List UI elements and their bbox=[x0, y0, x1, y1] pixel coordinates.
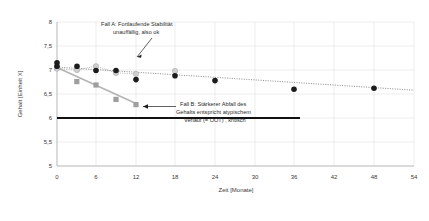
data-point bbox=[371, 85, 377, 91]
x-tick-18: 18 bbox=[172, 174, 179, 180]
data-point bbox=[172, 73, 178, 79]
data-point bbox=[133, 71, 138, 76]
data-point bbox=[54, 63, 60, 69]
x-tick-24: 24 bbox=[212, 174, 219, 180]
x-tick-6: 6 bbox=[94, 174, 98, 180]
x-tick-36: 36 bbox=[291, 174, 298, 180]
y-tick-6: 6 bbox=[49, 115, 53, 121]
y-tick-5: 5 bbox=[49, 163, 53, 169]
data-point bbox=[212, 78, 218, 84]
x-tick-labels: 0 6 12 18 24 30 36 42 48 54 bbox=[55, 174, 418, 180]
data-point bbox=[133, 102, 138, 107]
y-tick-7-5: 7,5 bbox=[44, 43, 53, 49]
series-fall-a-points bbox=[54, 60, 377, 92]
annotation-fall-b: Fall B: Stärkerer Abfall des Gehalts ent… bbox=[143, 101, 251, 123]
y-tick-8: 8 bbox=[49, 19, 53, 25]
y-tick-7: 7 bbox=[49, 67, 53, 73]
data-point bbox=[93, 82, 98, 87]
data-point bbox=[113, 97, 118, 102]
annotation-fall-a-leader bbox=[137, 38, 152, 57]
y-tick-6-5: 6,5 bbox=[44, 91, 53, 97]
annotation-fall-a-line-1: Fall A: Fortlaufende Stabilität bbox=[101, 21, 173, 27]
data-point bbox=[93, 68, 99, 74]
y-tick-labels: 8 7,5 7 6,5 6 5,5 5 bbox=[44, 19, 53, 169]
data-point bbox=[291, 86, 297, 92]
y-tick-5-5: 5,5 bbox=[44, 139, 53, 145]
chart-canvas: 8 7,5 7 6,5 6 5,5 5 0 6 12 18 24 30 36 4… bbox=[0, 0, 429, 221]
annotation-fall-b-line-3: Verlauf (= OOT) , kritisch bbox=[184, 117, 246, 123]
x-tick-30: 30 bbox=[252, 174, 259, 180]
data-point bbox=[133, 77, 139, 83]
data-point bbox=[74, 63, 80, 69]
x-tick-48: 48 bbox=[371, 174, 378, 180]
y-axis-title: Gehalt [Einheit X] bbox=[17, 70, 23, 117]
data-point bbox=[113, 68, 119, 74]
annotation-fall-a: Fall A: Fortlaufende Stabilität unauffäl… bbox=[101, 21, 173, 58]
stability-chart: 8 7,5 7 6,5 6 5,5 5 0 6 12 18 24 30 36 4… bbox=[0, 0, 429, 221]
x-tick-42: 42 bbox=[331, 174, 338, 180]
trendline-fall-a bbox=[57, 67, 414, 90]
data-point bbox=[74, 79, 79, 84]
annotation-fall-b-arrowhead bbox=[143, 104, 148, 108]
annotation-fall-b-line-2: Gehalts entspricht atypischem bbox=[176, 109, 251, 115]
x-tick-54: 54 bbox=[411, 174, 418, 180]
annotation-fall-b-line-1: Fall B: Stärkerer Abfall des bbox=[180, 101, 246, 107]
horizontal-gridlines bbox=[57, 22, 414, 142]
data-point bbox=[172, 68, 177, 73]
annotation-fall-a-line-2: unauffällig, also ok bbox=[113, 29, 159, 35]
x-tick-0: 0 bbox=[55, 174, 59, 180]
x-tick-12: 12 bbox=[133, 174, 140, 180]
x-axis-title: Zeit [Monate] bbox=[218, 187, 253, 193]
